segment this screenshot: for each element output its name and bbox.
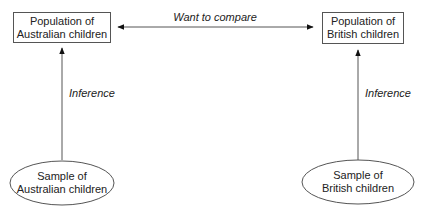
node-label-line1: Population of (30, 15, 94, 28)
inference-label-australian: Inference (69, 87, 115, 100)
node-label-line2: British children (322, 182, 394, 195)
node-label-line1: Sample of (333, 169, 383, 182)
node-label-line1: Population of (331, 15, 395, 28)
node-label-line2: Australian children (17, 28, 108, 41)
inference-label-british: Inference (365, 87, 411, 100)
population-australian-node: Population of Australian children (13, 12, 111, 43)
sample-british-node: Sample of British children (302, 160, 414, 204)
node-label-line1: Sample of (37, 170, 87, 183)
node-label-line2: British children (327, 28, 399, 41)
population-british-node: Population of British children (322, 12, 404, 44)
node-label-line2: Australian children (17, 183, 108, 196)
sample-australian-node: Sample of Australian children (10, 161, 114, 205)
compare-label: Want to compare (165, 11, 265, 24)
